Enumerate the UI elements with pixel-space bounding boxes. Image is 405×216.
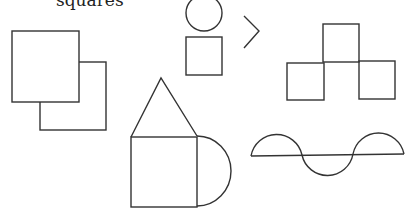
three-squares-t: [287, 24, 395, 100]
wave-on-line: [251, 133, 404, 175]
figure-canvas: [0, 0, 405, 216]
circle-over-square: [186, 0, 222, 75]
greater-than-arrow: [244, 16, 259, 48]
house-with-semicircle: [131, 78, 231, 207]
overlapping-squares: [12, 31, 106, 130]
